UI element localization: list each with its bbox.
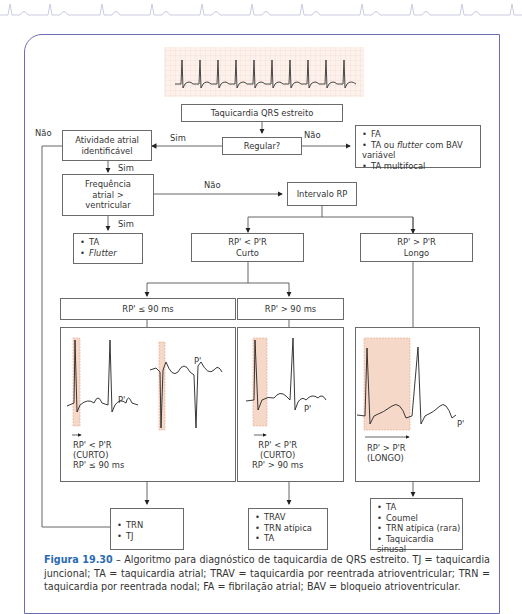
label-nao-left: Não — [35, 128, 52, 138]
freq-line2: atrial > — [92, 190, 123, 201]
outcome-ta: TA — [255, 533, 327, 544]
rp-interval-box: Intervalo RP — [287, 182, 357, 206]
outcome-coumel: Coumel — [377, 513, 462, 524]
outcome-taquicardia-sinusal: Taquicardia sinusal — [377, 534, 462, 555]
p-prime-label: P' — [457, 419, 464, 429]
outcome-gt90-box: TRAV TRN atípica TA — [248, 508, 328, 550]
outcome-flutter: Flutter — [80, 248, 142, 259]
figure-caption: Figura 19.30 – Algoritmo para diagnóstic… — [44, 553, 490, 594]
irregular-outcome-box: FA TA ou flutter com BAV variável TA mul… — [355, 125, 481, 168]
figure-number: Figura 19.30 — [44, 554, 113, 565]
outcome-long-box: TA Coumel TRN atípica (rara) Taquicardia… — [370, 498, 463, 550]
panel-gt90-text: RP' < P'R (CURTO) RP' > 90 ms — [252, 440, 303, 470]
outcome-ta: TA — [80, 237, 142, 248]
outcome-fa: FA — [362, 129, 480, 140]
outcome-ta-flutter: TA ou flutter com BAV variável — [362, 140, 480, 161]
outcome-tj: TJ — [117, 531, 183, 542]
outcome-trn: TRN — [117, 520, 183, 531]
regular-label: Regular? — [244, 141, 281, 152]
outcome-trn-atipica-rara: TRN atípica (rara) — [377, 523, 462, 534]
atrial-activity-line2: identificável — [81, 146, 132, 157]
long-rp-line2: Longo — [404, 248, 429, 259]
rp-le90-label: RP' ≤ 90 ms — [122, 304, 173, 315]
long-rp-box: RP' > P'R Longo — [360, 233, 473, 262]
atrial-frequency-box: Frequência atrial > ventricular — [62, 174, 154, 216]
atrial-activity-box: Atividade atrial identificável — [62, 130, 152, 161]
rp-gt90-label: RP' > 90 ms — [265, 304, 316, 315]
short-rp-line1: RP' < P'R — [228, 237, 267, 248]
label-sim-atrial: Sim — [118, 163, 134, 173]
p-prime-label: P' — [304, 404, 311, 414]
label-nao-freq: Não — [204, 180, 221, 190]
p-prime-label-2: P' — [194, 356, 201, 366]
short-rp-box: RP' < P'R Curto — [191, 233, 304, 262]
outcome-ta-multifocal: TA multifocal — [362, 161, 480, 172]
label-sim-freq: Sim — [118, 219, 134, 229]
p-prime-label: P' — [118, 395, 125, 405]
label-sim-regular: Sim — [170, 133, 186, 143]
ecg-strip — [164, 47, 364, 97]
start-box: Taquicardia QRS estreito — [181, 104, 343, 122]
long-rp-line1: RP' > P'R — [397, 237, 436, 248]
regular-decision-box: Regular? — [222, 137, 302, 155]
freq-line1: Frequência — [85, 179, 131, 190]
rp-le90-header: RP' ≤ 90 ms — [60, 298, 236, 320]
start-label: Taquicardia QRS estreito — [211, 108, 314, 119]
panel-le90-text: RP' < P'R (CURTO) RP' ≤ 90 ms — [73, 440, 124, 470]
outcome-ta: TA — [377, 502, 462, 513]
panel-le90: P' P' RP' < P'R (CURTO) RP' ≤ 90 ms — [60, 327, 236, 482]
atrial-activity-line1: Atividade atrial — [75, 135, 139, 146]
label-nao-regular: Não — [304, 130, 321, 140]
freq-line3: ventricular — [85, 200, 130, 211]
rp-gt90-header: RP' > 90 ms — [237, 298, 344, 320]
short-rp-line2: Curto — [236, 248, 259, 259]
outcome-trn-atipica: TRN atípica — [255, 523, 327, 534]
panel-long: P' RP' > P'R (LONGO) — [355, 327, 480, 482]
rp-interval-label: Intervalo RP — [297, 189, 348, 200]
panel-long-text: RP' > P'R (LONGO) — [367, 443, 406, 463]
outcome-trav: TRAV — [255, 512, 327, 523]
outcome-le90-box: TRN TJ — [110, 508, 184, 550]
ta-flutter-box: TA Flutter — [73, 233, 143, 264]
panel-gt90: P' RP' < P'R (CURTO) RP' > 90 ms — [237, 327, 344, 482]
